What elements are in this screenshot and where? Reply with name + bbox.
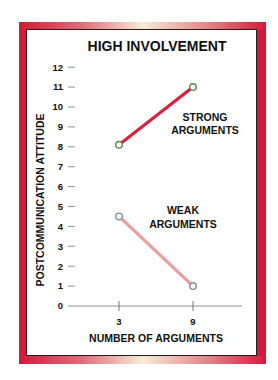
y-axis-title: POSTCOMMUNICATION ATTITUDE [34, 113, 46, 286]
y-tick-label: 11 [53, 81, 64, 92]
series-label-strong-line2: ARGUMENTS [171, 124, 239, 136]
x-tick-label: 3 [116, 316, 121, 327]
data-point-marker [116, 213, 123, 220]
y-tick-label: 9 [58, 121, 63, 132]
y-tick-label: 6 [58, 181, 63, 192]
line-chart: HIGH INVOLVEMENT POSTCOMMUNICATION ATTIT… [0, 0, 278, 380]
y-tick-label: 8 [58, 141, 63, 152]
data-point-marker [190, 84, 197, 91]
y-tick-label: 0 [58, 300, 63, 311]
y-tick-label: 4 [58, 221, 64, 232]
data-point-marker [116, 142, 123, 149]
y-tick-label: 1 [58, 280, 64, 291]
x-axis-ticks: 39 [116, 301, 195, 327]
y-tick-label: 2 [58, 261, 63, 272]
x-tick-label: 9 [190, 316, 195, 327]
series-label-weak-line2: ARGUMENTS [149, 218, 217, 230]
y-axis-ticks: 0123456789101112 [52, 62, 75, 312]
y-tick-label: 3 [58, 241, 63, 252]
series-label-strong-line1: STRONG [183, 111, 228, 123]
y-tick-label: 7 [58, 161, 63, 172]
y-tick-label: 12 [52, 62, 63, 73]
y-tick-label: 10 [52, 101, 63, 112]
data-point-marker [190, 283, 197, 290]
chart-title: HIGH INVOLVEMENT [88, 38, 227, 54]
y-tick-label: 5 [58, 201, 64, 212]
x-axis-title: NUMBER OF ARGUMENTS [89, 332, 223, 344]
series-label-weak-line1: WEAK [167, 204, 199, 216]
